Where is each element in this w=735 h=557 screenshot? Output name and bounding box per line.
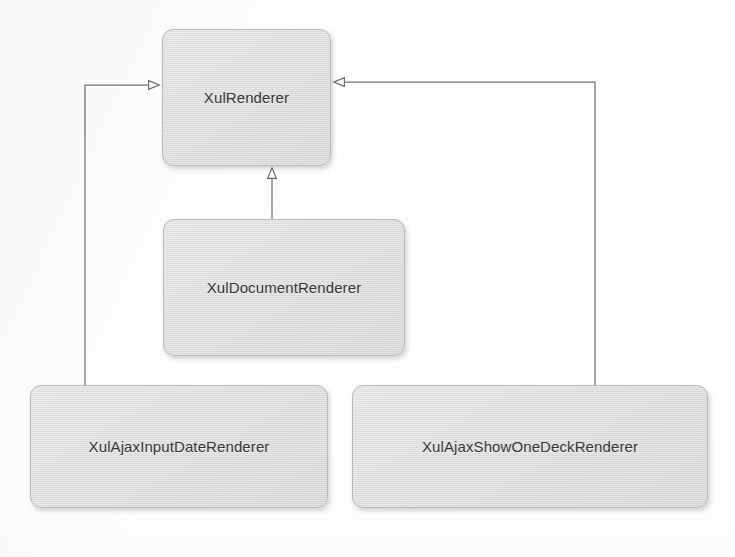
class-name-label: XulAjaxInputDateRenderer	[89, 438, 270, 455]
class-name-label: XulAjaxShowOneDeckRenderer	[422, 438, 638, 455]
class-name-label: XulDocumentRenderer	[207, 279, 361, 296]
class-box-xul-ajax-input-date-renderer[interactable]: XulAjaxInputDateRenderer	[30, 385, 328, 508]
class-name-label: XulRenderer	[204, 89, 289, 106]
class-box-xul-ajax-show-one-deck-renderer[interactable]: XulAjaxShowOneDeckRenderer	[352, 385, 708, 508]
uml-class-diagram: XulRenderer (straight up, into bottom ed…	[0, 0, 735, 557]
class-box-xul-document-renderer[interactable]: XulDocumentRenderer	[163, 219, 405, 356]
connector-generalization-ajax-input	[85, 85, 159, 385]
class-box-xul-renderer[interactable]: XulRenderer	[162, 29, 331, 166]
